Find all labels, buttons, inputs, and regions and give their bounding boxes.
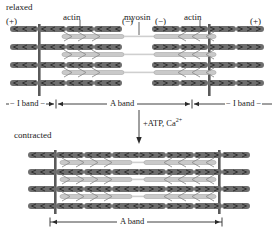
transition-label: +ATP, Ca2+: [143, 117, 182, 127]
transition-text: +ATP, Ca: [143, 118, 176, 128]
contracted-state-label: contracted: [14, 131, 51, 140]
relaxed-callout-actin-right: actin: [184, 13, 202, 22]
relaxed-polarity-left-outer: (+): [6, 17, 17, 26]
relaxed-polarity-right-outer: (+): [250, 17, 261, 26]
relaxed-i-band-right-label: − I band −: [225, 99, 262, 108]
contracted-a-band-label: A band: [117, 217, 147, 226]
relaxed-actin-filaments: [10, 26, 264, 86]
relaxed-a-band-label: A band: [107, 99, 137, 108]
sarcomere-svg: [0, 0, 278, 242]
relaxed-state-label: relaxed: [6, 3, 32, 12]
transition-superscript: 2+: [176, 117, 182, 123]
relaxed-polarity-right-inner: (−): [155, 17, 166, 26]
relaxed-callout-actin-left: actin: [63, 13, 81, 22]
relaxed-i-band-left-label: − I band −: [9, 99, 46, 108]
transition-arrow: [136, 110, 141, 144]
relaxed-callout-myosin: myosin: [124, 13, 151, 22]
sarcomere-figure: relaxed (+) actin (−) myosin (−) actin (…: [0, 0, 278, 242]
